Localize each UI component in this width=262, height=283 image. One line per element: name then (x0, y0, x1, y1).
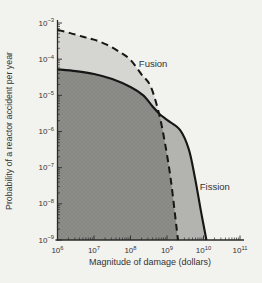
y-tick-label: 10−6 (38, 126, 54, 136)
y-tick-label: 10−3 (38, 17, 54, 27)
x-axis-title: Magnitude of damage (dollars) (89, 257, 211, 267)
y-axis-title: Probability of a reactor accident per ye… (4, 52, 14, 210)
y-tick-label: 10−7 (38, 162, 54, 172)
fusion-label: Fusion (139, 58, 168, 69)
x-tick-label: 108 (124, 245, 136, 255)
x-tick-label: 1011 (233, 245, 248, 255)
x-tick-label: 1010 (196, 245, 211, 255)
y-tick-label: 10−8 (38, 198, 54, 208)
fission-label: Fission (200, 181, 230, 192)
y-tick-label: 10−9 (38, 234, 54, 244)
x-tick-label: 106 (51, 245, 63, 255)
x-tick-label: 109 (161, 245, 173, 255)
y-tick-label: 10−4 (38, 54, 54, 64)
x-tick-label: 107 (88, 245, 100, 255)
reactor-risk-chart: 1061071081091010101110−310−410−510−610−7… (0, 0, 262, 283)
reactor-accident-figure: 1061071081091010101110−310−410−510−610−7… (0, 0, 262, 283)
overlap-hatch (58, 69, 178, 240)
y-tick-label: 10−5 (38, 90, 54, 100)
